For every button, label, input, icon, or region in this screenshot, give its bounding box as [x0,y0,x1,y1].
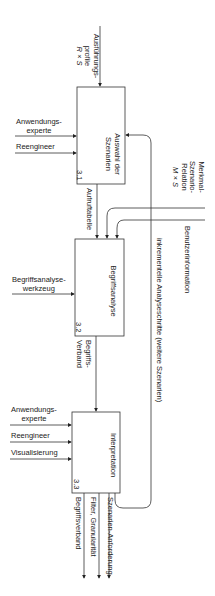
label-relation: Merkmal- Szenario- Relation M × S [171,150,205,204]
box-3-2-title: Begriffsanalyse [109,256,118,326]
box-3-3-number: 3.3 [72,479,81,489]
relation-line2: Szenario- [188,150,197,204]
label-profiles: Ausführungs- profile R × S [75,26,101,86]
mech-box2-tool-l2: werkzeug [12,285,66,294]
mech-box2-tool: Begriffsanalyse- werkzeug [12,276,66,293]
box-3-1-title: Auswahl der Szenarien [104,114,121,194]
profiles-line3: R × S [75,26,84,86]
mech-box3-visualisierung: Visualisierung [11,449,58,458]
flow-begriffsverband: Begriffs- Verband [75,340,92,368]
profiles-line1: Ausführungs- [92,26,101,86]
label-user-info: Benutzerinformation [183,226,192,293]
flow-out-filter: Filter, Granularität [89,497,98,557]
box-3-1-number: 3.1 [75,170,84,180]
relation-line1: Merkmal- [197,150,206,204]
mech-box1-expert: Anwendungs- experte [16,118,62,135]
mech-box1-reengineer: Reengineer [16,143,55,152]
mech-box3-expert: Anwendungs- experte [11,406,57,423]
flow-out-begriffsverband: Begriffsverband [74,497,83,549]
flow-box2-out-l2: Verband [75,340,84,368]
flow-out-szenarien-anforderung: Szenarien-Anforderung [106,497,115,575]
profiles-line2: profile [83,26,92,86]
mech-box3-expert-l2: experte [11,415,57,424]
box-3-1-title-line1: Auswahl der [113,114,122,194]
mech-box1-expert-l2: experte [16,127,62,136]
box-3-2-number: 3.2 [74,322,83,332]
relation-line4: M × S [171,150,180,204]
box-3-1-title-line2: Szenarien [104,114,113,194]
flow-aufruftabelle: Aufruftabelle [85,188,94,230]
label-feedback: inkrementelle Analyseschritte (weitere S… [155,238,164,402]
flow-box2-out-l1: Begriffs- [84,340,93,368]
box-3-3-title: Interpretation [109,425,118,485]
mech-box3-reengineer: Reengineer [11,432,50,441]
relation-line3: Relation [180,150,189,204]
